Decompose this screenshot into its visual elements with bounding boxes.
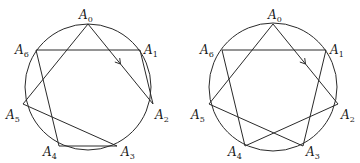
figure-right-heptagram: A0A1A2A3A4A5A6 bbox=[190, 8, 355, 161]
vertex-label-a5: A5 bbox=[190, 108, 205, 124]
circumcircle bbox=[209, 23, 337, 151]
circumcircle bbox=[25, 24, 151, 150]
vertex-label-a0: A0 bbox=[267, 8, 282, 24]
diagram-canvas: A0A1A2A3A4A5A6 A0A1A2A3A4A5A6 bbox=[0, 0, 360, 163]
vertex-label-a2: A2 bbox=[154, 108, 169, 124]
edge-a5-a0 bbox=[209, 24, 273, 104]
vertex-label-a6: A6 bbox=[199, 43, 214, 59]
vertex-label-a0: A0 bbox=[78, 8, 93, 24]
vertex-label-a3: A3 bbox=[120, 145, 135, 161]
vertex-label-a6: A6 bbox=[14, 43, 29, 59]
figure-left-polygon-path: A0A1A2A3A4A5A6 bbox=[5, 8, 169, 161]
edge-a3-a5 bbox=[23, 104, 117, 146]
edge-a5-a0 bbox=[23, 24, 88, 104]
edge-a4-a6 bbox=[222, 50, 245, 146]
vertex-label-a1: A1 bbox=[143, 43, 158, 59]
edge-a3-a5 bbox=[209, 104, 303, 146]
vertex-label-a5: A5 bbox=[5, 108, 20, 124]
vertex-label-a2: A2 bbox=[340, 108, 355, 124]
vertex-label-a3: A3 bbox=[305, 145, 320, 161]
vertex-label-a4: A4 bbox=[227, 145, 242, 161]
vertex-label-a4: A4 bbox=[42, 145, 57, 161]
vertex-label-a1: A1 bbox=[329, 43, 344, 59]
